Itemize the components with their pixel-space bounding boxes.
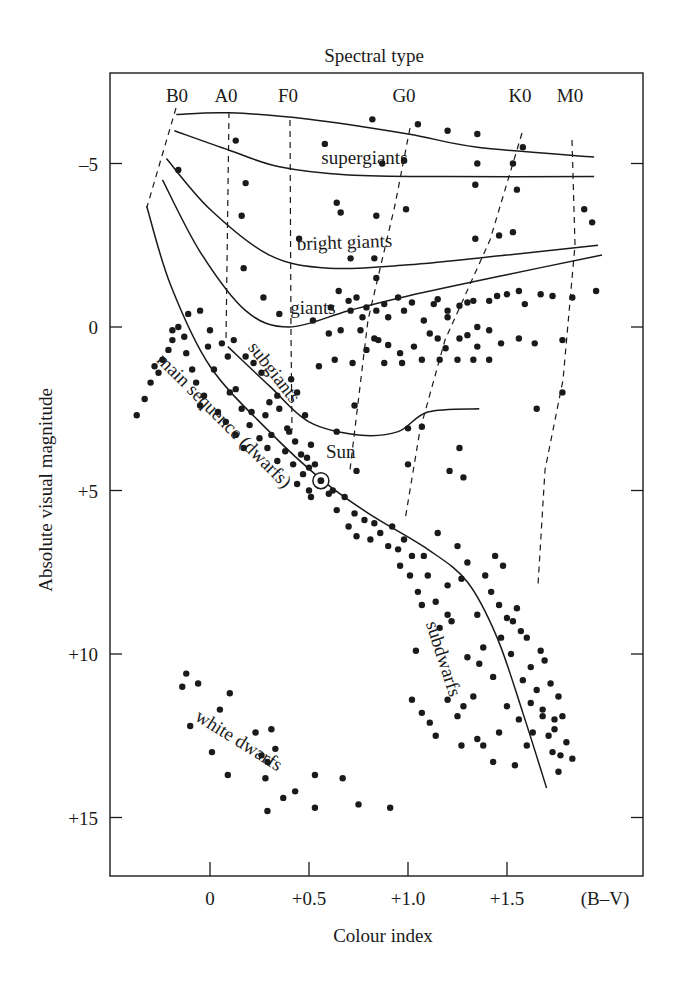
star-point: [427, 719, 433, 725]
star-point: [217, 706, 223, 712]
y-tick-label: +10: [68, 644, 98, 665]
star-point: [490, 759, 496, 765]
star-point: [427, 330, 433, 336]
star-point: [353, 468, 359, 474]
star-point: [334, 200, 340, 206]
star-point: [268, 726, 274, 732]
star-point: [589, 219, 595, 225]
star-point: [389, 523, 395, 529]
star-point: [454, 543, 460, 549]
star-point: [302, 412, 308, 418]
star-point: [563, 739, 569, 745]
star-point: [134, 412, 140, 418]
star-point: [401, 536, 407, 542]
star-point: [435, 335, 441, 341]
star-point: [444, 128, 450, 134]
star-point: [179, 684, 185, 690]
star-point: [312, 804, 318, 810]
star-point: [569, 755, 575, 761]
star-point: [474, 131, 480, 137]
star-point: [472, 236, 478, 242]
star-point: [225, 353, 231, 359]
star-point: [141, 396, 147, 402]
star-point: [292, 438, 298, 444]
spectral-boundary-line: [538, 140, 575, 585]
star-point: [345, 523, 351, 529]
star-point: [304, 455, 310, 461]
star-point: [444, 314, 450, 320]
star-point: [470, 693, 476, 699]
sun-symbol: [313, 473, 329, 489]
star-point: [294, 481, 300, 487]
star-point: [549, 293, 555, 299]
star-point: [403, 206, 409, 212]
luminosity-class-curve: [166, 159, 598, 269]
star-point: [510, 229, 516, 235]
star-point: [240, 265, 246, 271]
hr-diagram: Spectral type B0A0F0G0K0M0 supergiantsbr…: [0, 0, 684, 981]
star-point: [415, 589, 421, 595]
star-point: [419, 710, 425, 716]
star-point: [496, 602, 502, 608]
star-point: [433, 598, 439, 604]
spectral-type-label: M0: [557, 85, 583, 106]
star-point: [498, 340, 504, 346]
star-point: [419, 424, 425, 430]
star-point: [238, 213, 244, 219]
star-point: [347, 307, 353, 313]
star-point: [516, 335, 522, 341]
star-point: [252, 729, 258, 735]
y-tick-label: +15: [68, 808, 98, 829]
star-point: [353, 533, 359, 539]
star-point: [421, 553, 427, 559]
star-point: [559, 337, 565, 343]
star-point: [504, 615, 510, 621]
star-point: [500, 563, 506, 569]
star-point: [446, 468, 452, 474]
x-axis-ticks: 0+0.5+1.0+1.5: [205, 862, 524, 909]
star-point: [407, 572, 413, 578]
star-point: [195, 680, 201, 686]
star-point: [197, 307, 203, 313]
star-point: [290, 461, 296, 467]
star-point: [474, 160, 480, 166]
star-point: [306, 464, 312, 470]
star-point: [397, 350, 403, 356]
star-point: [442, 345, 448, 351]
star-point: [524, 634, 530, 640]
star-point: [276, 406, 282, 412]
star-point: [169, 337, 175, 343]
star-point: [266, 399, 272, 405]
star-point: [539, 713, 545, 719]
star-point: [419, 357, 425, 363]
star-point: [504, 291, 510, 297]
star-point: [413, 648, 419, 654]
star-point: [363, 304, 369, 310]
star-point: [233, 386, 239, 392]
star-point: [425, 572, 431, 578]
star-point: [514, 186, 520, 192]
star-point: [147, 379, 153, 385]
star-point: [405, 425, 411, 431]
star-point: [227, 690, 233, 696]
star-point: [435, 296, 441, 302]
star-point: [448, 618, 454, 624]
star-point: [474, 324, 480, 330]
star-point: [248, 409, 254, 415]
star-point: [359, 314, 365, 320]
star-point: [444, 307, 450, 313]
star-point: [464, 654, 470, 660]
y-tick-label: 0: [89, 317, 99, 338]
star-point: [349, 360, 355, 366]
star-point: [512, 762, 518, 768]
star-point: [516, 288, 522, 294]
star-point: [456, 445, 462, 451]
star-point: [498, 634, 504, 640]
star-point: [357, 327, 363, 333]
star-point: [551, 726, 557, 732]
star-point: [559, 389, 565, 395]
star-point: [472, 182, 478, 188]
star-point: [298, 451, 304, 457]
star-point: [347, 255, 353, 261]
star-point: [464, 559, 470, 565]
